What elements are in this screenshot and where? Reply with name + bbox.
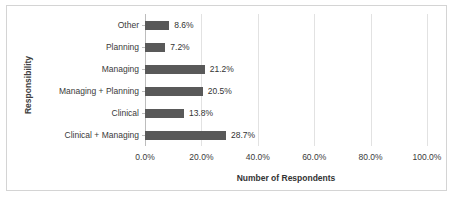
bar <box>145 131 226 140</box>
bar-series: 8.6% 7.2% 21.2% 20.5% 13.8% <box>145 14 427 146</box>
bar-data-label: 13.8% <box>189 108 213 118</box>
bar-row: 8.6% <box>145 14 427 36</box>
x-axis-tick-label: 0.0% <box>135 152 154 162</box>
x-axis-tick-labels: 0.0%20.0%40.0%60.0%80.0%100.0% <box>145 152 427 166</box>
bar-row: 20.5% <box>145 80 427 102</box>
bar <box>145 43 165 52</box>
bar-data-label: 21.2% <box>210 64 234 74</box>
y-axis-tick-mark <box>142 69 145 70</box>
y-axis-tick-mark <box>142 135 145 136</box>
bar-row: 7.2% <box>145 36 427 58</box>
y-axis-tick-mark <box>142 25 145 26</box>
gridline <box>427 14 428 146</box>
x-axis-tick-label: 40.0% <box>246 152 270 162</box>
y-axis-tick-label: Managing + Planning <box>25 80 142 102</box>
y-axis-tick-mark <box>142 113 145 114</box>
chart-frame: Responsibility Other Planning Managing M… <box>6 5 447 191</box>
bar <box>145 21 169 30</box>
bar <box>145 87 203 96</box>
bar-data-label: 28.7% <box>231 130 255 140</box>
bar-row: 21.2% <box>145 58 427 80</box>
bar-data-label: 8.6% <box>174 20 193 30</box>
bar-row: 28.7% <box>145 124 427 146</box>
y-axis-tick-labels: Other Planning Managing Managing + Plann… <box>25 14 142 146</box>
plot-area: 8.6% 7.2% 21.2% 20.5% 13.8% <box>145 14 427 146</box>
y-axis-tick-label: Clinical + Managing <box>25 124 142 146</box>
y-axis-tick-label: Planning <box>25 36 142 58</box>
x-axis-tick-label: 20.0% <box>189 152 213 162</box>
bar <box>145 65 205 74</box>
y-axis-tick-label: Clinical <box>25 102 142 124</box>
y-axis-tick-mark <box>142 91 145 92</box>
x-axis-tick-label: 80.0% <box>359 152 383 162</box>
y-axis-tick-label: Other <box>25 14 142 36</box>
bar <box>145 109 184 118</box>
bar-data-label: 20.5% <box>208 86 232 96</box>
y-axis-tick-mark <box>142 47 145 48</box>
x-axis-title: Number of Respondents <box>145 173 427 183</box>
x-axis-tick-label: 100.0% <box>413 152 442 162</box>
x-axis-tick-label: 60.0% <box>302 152 326 162</box>
bar-row: 13.8% <box>145 102 427 124</box>
bar-data-label: 7.2% <box>170 42 189 52</box>
y-axis-tick-label: Managing <box>25 58 142 80</box>
